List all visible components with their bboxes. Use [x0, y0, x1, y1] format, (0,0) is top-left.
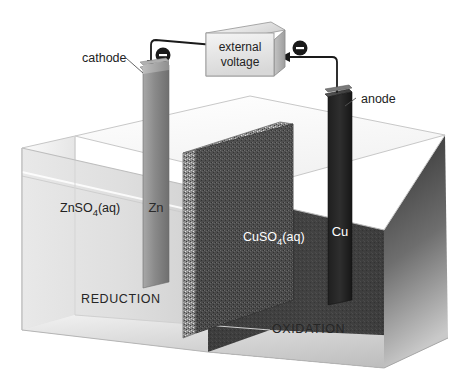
cu-solution-state: (aq)	[282, 230, 304, 244]
voltage-box-label-line1: external	[219, 40, 262, 54]
anode-wire	[286, 57, 337, 92]
anode-label: anode	[361, 92, 396, 106]
zinc-electrode[interactable]: Zn	[140, 62, 169, 288]
barrier-front-speckle	[196, 124, 293, 333]
zinc-electrode-label: Zn	[148, 200, 163, 215]
tank-right-wall	[384, 135, 448, 368]
zn-solution-formula: ZnSO	[60, 201, 93, 215]
cathode-label: cathode	[82, 51, 127, 65]
copper-electrode-label: Cu	[332, 224, 349, 239]
diagram-canvas: Zn Cu ZnSO4(aq) CuSO4(aq) REDUCTION OXID…	[0, 0, 470, 384]
cathode-leader-line	[126, 58, 143, 73]
cu-solution-formula: CuSO	[243, 230, 277, 244]
electron-left-minus	[159, 54, 167, 56]
copper-electrode[interactable]: Cu	[325, 89, 352, 305]
copper-electrode-body	[328, 92, 352, 305]
electron-badge-right	[293, 41, 308, 56]
electron-right-minus	[296, 47, 304, 49]
zn-solution-state: (aq)	[98, 201, 120, 215]
oxidation-label: OXIDATION	[272, 322, 345, 336]
zinc-electrode-body	[143, 65, 169, 288]
electrolytic-cell-diagram: Zn Cu ZnSO4(aq) CuSO4(aq) REDUCTION OXID…	[0, 0, 470, 384]
external-voltage-box[interactable]: external voltage	[206, 22, 285, 76]
voltage-box-label-line2: voltage	[221, 55, 260, 69]
barrier-left-face	[183, 150, 196, 338]
voltage-box-side	[274, 30, 285, 76]
reduction-label: REDUCTION	[81, 292, 161, 306]
